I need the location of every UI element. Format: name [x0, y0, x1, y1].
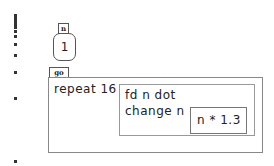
trail-dot: [14, 26, 17, 29]
trail-dot: [14, 160, 17, 163]
command-change: change n: [125, 104, 185, 118]
trail-dot: [14, 30, 17, 33]
repeat-label: repeat 16: [54, 82, 117, 96]
trail-dot: [14, 43, 17, 46]
trail-dot: [14, 35, 17, 38]
repeat-body-box[interactable]: fd n dot change n n * 1.3: [119, 84, 255, 136]
command-fd: fd n dot: [125, 88, 176, 102]
trail-dot: [14, 97, 17, 100]
variable-value-box[interactable]: 1: [53, 33, 76, 61]
trail-dot: [14, 54, 17, 57]
expression-text: n * 1.3: [197, 113, 241, 127]
expression-box[interactable]: n * 1.3: [190, 107, 247, 134]
trail-dot: [14, 71, 17, 74]
procedure-box[interactable]: repeat 16 fd n dot change n n * 1.3: [48, 77, 263, 153]
